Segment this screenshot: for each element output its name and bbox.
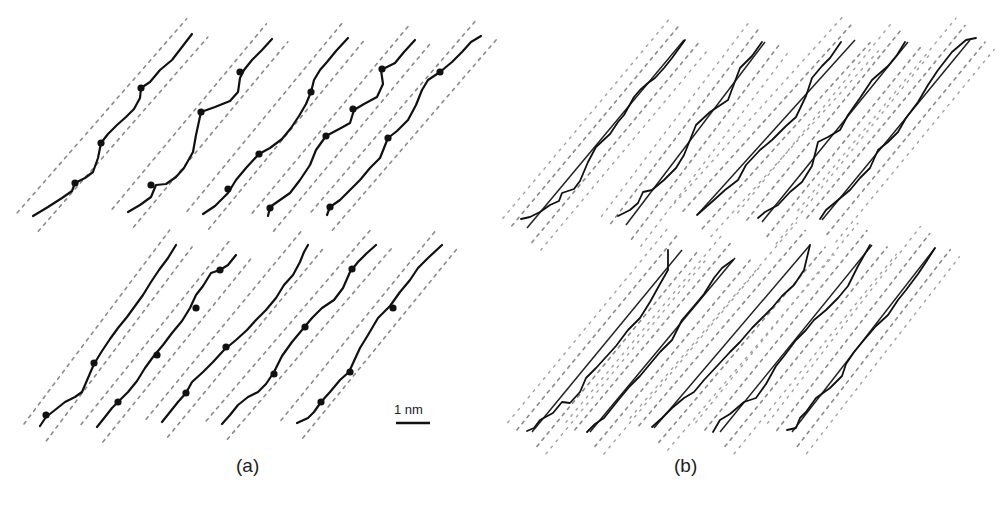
chain-b-6 (508, 228, 706, 454)
scale-bar-label: 1 nm (394, 402, 423, 417)
chain-node (236, 68, 243, 75)
chain-b-7 (566, 236, 759, 454)
chain-node (90, 359, 97, 366)
chain-trace (33, 34, 192, 216)
chain-b-1 (503, 18, 708, 250)
dashed-bound-lower (206, 230, 370, 421)
figure-canvas (0, 0, 1002, 505)
chain-node (348, 265, 355, 272)
chain-a-10 (281, 230, 458, 438)
chain-b-2 (601, 21, 789, 247)
dashed-bound-lower (81, 240, 230, 424)
chain-node (307, 88, 314, 95)
dashed-bound-upper (332, 39, 496, 230)
dashed-bound-outer (738, 20, 894, 212)
chain-a-4 (252, 25, 431, 231)
chain-trace (758, 42, 905, 218)
chain-node (224, 185, 231, 192)
fitted-line (532, 250, 682, 432)
dashed-bound-lower (683, 25, 851, 211)
dashed-bound-outer (836, 50, 994, 242)
chain-node (97, 139, 104, 146)
chain-node (216, 266, 223, 273)
dashed-bound-lower (24, 230, 170, 424)
chain-node (255, 150, 262, 157)
fitted-line (698, 40, 855, 214)
dashed-bound-lower (747, 28, 903, 220)
panel-a-chains (17, 19, 497, 442)
dashed-bound-upper (827, 42, 985, 234)
fitted-line (654, 245, 810, 428)
chain-node (384, 134, 391, 141)
chain-node (192, 304, 199, 311)
chain-node (266, 204, 273, 211)
dashed-bound-upper (303, 248, 458, 438)
chain-node (389, 304, 396, 311)
chain-node (317, 398, 324, 405)
dashed-bound-lower (512, 26, 679, 226)
chain-a-2 (112, 24, 288, 227)
chain-node (153, 351, 160, 358)
chain-a-9 (206, 230, 392, 439)
dashed-bound-outer (807, 257, 960, 454)
chain-a-3 (187, 23, 364, 229)
chain-node (71, 179, 78, 186)
chain-trace (327, 36, 481, 215)
chain-a-7 (81, 240, 252, 442)
dashed-bound-outer (696, 223, 858, 422)
chain-node (197, 108, 204, 115)
dashed-bound-outer (566, 236, 721, 422)
dashed-bound-outer (508, 228, 668, 422)
chain-trace (787, 248, 935, 430)
chain-node (349, 105, 356, 112)
chain-node (378, 65, 385, 72)
chain-node (326, 203, 333, 210)
dashed-bound-upper (532, 42, 699, 242)
dashed-bound-outer (604, 268, 759, 454)
dashed-bound-lower (575, 244, 730, 430)
chain-b-8 (630, 223, 834, 450)
chain-trace (618, 42, 762, 216)
dashed-bound-upper (632, 43, 781, 239)
chain-node (270, 370, 277, 377)
dashed-bound-lower (611, 28, 760, 224)
panel-b-chains (503, 18, 994, 454)
dashed-bound-outer (668, 255, 834, 450)
chain-node (436, 68, 443, 75)
dashed-bound-upper (134, 42, 288, 227)
dashed-bound-upper (725, 247, 887, 446)
chain-b-5 (798, 18, 994, 242)
panel-label-b: (b) (674, 455, 697, 477)
dashed-bound-outer (798, 18, 956, 210)
chain-node (114, 398, 121, 405)
dashed-bound-outer (503, 18, 670, 218)
dashed-bound-lower (777, 234, 930, 431)
fitted-line (590, 258, 735, 432)
dashed-bound-outer (674, 18, 842, 204)
chain-trace (40, 245, 176, 426)
chain-node (301, 323, 308, 330)
chain-node (137, 84, 144, 91)
chain-node (222, 343, 229, 350)
dashed-bound-upper (767, 44, 923, 236)
chain-b-4 (738, 20, 932, 244)
chain-trace (697, 42, 841, 215)
dashed-bound-lower (187, 23, 342, 211)
chain-a-6 (24, 230, 192, 441)
dashed-bound-lower (705, 231, 867, 430)
chain-node (322, 132, 329, 139)
chain-node (42, 411, 49, 418)
chain-trace (713, 245, 870, 432)
dashed-bound-lower (252, 25, 409, 213)
dashed-bound-upper (274, 43, 431, 231)
chain-a-1 (17, 19, 208, 231)
dashed-bound-upper (168, 248, 324, 437)
dashed-bound-lower (311, 21, 475, 212)
dashed-bound-upper (537, 252, 697, 446)
chain-trace (521, 40, 685, 219)
dashed-bound-outer (776, 51, 932, 243)
dashed-bound-lower (807, 26, 965, 218)
fitted-line (822, 40, 970, 220)
fitted-line (527, 40, 684, 228)
dashed-bound-upper (38, 37, 208, 231)
